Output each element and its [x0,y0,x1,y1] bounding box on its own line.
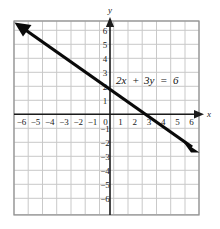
x-tick-label: 1 [118,117,123,127]
equation-term-1: 2x [116,74,127,86]
x-tick-label: −4 [45,117,55,127]
x-axis-label: x [206,109,211,119]
x-tick-label: −5 [31,117,41,127]
x-tick-label: −1 [88,117,98,127]
x-tick-label: 5 [175,117,180,127]
y-tick-label: −5 [100,180,110,190]
y-tick-label: 1 [103,96,108,106]
y-tick-label: 4 [103,54,108,64]
x-tick-label: 6 [189,117,194,127]
x-tick-label: 2 [133,117,138,127]
x-tick-label: −6 [17,117,27,127]
equation-term-2: 3y [143,74,155,86]
x-tick-label: −3 [59,117,69,127]
y-tick-label: 3 [103,68,108,78]
y-tick-label: 5 [103,40,108,50]
y-tick-label: −2 [100,138,110,148]
y-tick-label: −4 [100,166,110,176]
coordinate-plane-graph: x y −6 −5 −4 −3 −2 −1 0 1 2 3 4 5 6 −6 −… [0,0,220,229]
equation-operator-1: + [132,74,139,86]
equation-operator-2: = [160,74,167,86]
y-tick-label: −3 [100,152,110,162]
y-tick-label: 6 [103,26,108,36]
x-tick-label: −2 [73,117,83,127]
equation-term-3: 6 [173,74,179,86]
y-axis-label: y [107,5,112,15]
coordinate-plane-figure: x y −6 −5 −4 −3 −2 −1 0 1 2 3 4 5 6 −6 −… [0,0,220,229]
y-tick-label: −6 [100,194,110,204]
y-tick-label: −1 [100,124,110,134]
